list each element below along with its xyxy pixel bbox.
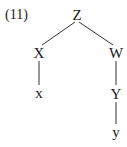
node-x-upper: X (34, 46, 45, 61)
node-y-lower: y (112, 125, 120, 140)
node-x-lower: x (35, 86, 43, 101)
node-y-upper: Y (111, 87, 122, 102)
node-w: W (109, 46, 123, 61)
edge-z-x (42, 22, 75, 45)
node-z: Z (72, 8, 81, 23)
edge-z-w (79, 22, 113, 45)
tree-edges (0, 0, 127, 147)
